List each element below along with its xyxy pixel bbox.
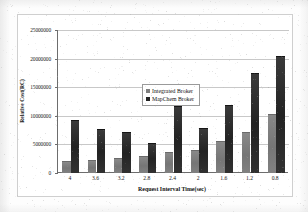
y-axis-tick-labels: 0500000010000000150000002000000025000000 [0, 30, 54, 173]
bar-group [62, 30, 79, 173]
legend-label-mapchem-broker: MapChem Broker [152, 95, 194, 103]
x-axis-tick-label: 2 [197, 175, 200, 181]
bar-group [88, 30, 105, 173]
x-axis-tick-label: 3.6 [92, 175, 99, 181]
legend-swatch-mapchem-broker [146, 97, 150, 101]
x-axis-tick-label: 2.8 [143, 175, 150, 181]
x-axis-tick-label: 1.2 [246, 175, 253, 181]
x-axis-tick-label: 4 [68, 175, 71, 181]
y-axis-tick [55, 173, 58, 174]
y-axis-tick-label: 0 [0, 170, 51, 176]
y-axis-tick-label: 20000000 [0, 56, 51, 62]
bar [225, 105, 233, 173]
bar [199, 128, 207, 173]
y-axis-tick-label: 5000000 [0, 141, 51, 147]
bar [88, 160, 96, 173]
bar [97, 129, 105, 173]
y-axis-tick-label: 25000000 [0, 27, 51, 33]
legend-swatch-integrated-broker [146, 89, 150, 93]
x-axis-tick-label: 2.4 [169, 175, 176, 181]
bar [62, 161, 70, 173]
bar [268, 114, 276, 173]
bar [174, 106, 182, 173]
bar-group [216, 30, 233, 173]
bar [114, 158, 122, 173]
y-axis-tick-label: 10000000 [0, 113, 51, 119]
x-axis-tick-label: 3.2 [118, 175, 125, 181]
y-axis-tick-label: 15000000 [0, 84, 51, 90]
bar [242, 132, 250, 173]
x-axis-tick-label: 1.6 [220, 175, 227, 181]
bar [122, 132, 130, 173]
chart-legend: Integrated Broker MapChem Broker [142, 84, 200, 106]
bar [71, 120, 79, 173]
legend-item-integrated-broker: Integrated Broker [146, 87, 194, 95]
bar-group [268, 30, 285, 173]
bar-group [242, 30, 259, 173]
plot-area: Integrated Broker MapChem Broker [57, 30, 288, 173]
x-axis-tick-label: 0.8 [272, 175, 279, 181]
legend-label-integrated-broker: Integrated Broker [152, 87, 193, 95]
scanned-figure-page: 0500000010000000150000002000000025000000… [0, 0, 308, 212]
bar [139, 156, 147, 173]
bar [251, 73, 259, 173]
x-axis-title: Request Interval Time(sec) [138, 186, 206, 192]
bar [148, 143, 156, 173]
bar [276, 56, 284, 173]
x-axis-tick-labels: 43.63.22.82.421.61.20.8 [57, 175, 288, 185]
bar [191, 150, 199, 173]
legend-item-mapchem-broker: MapChem Broker [146, 95, 194, 103]
bar-group [114, 30, 131, 173]
y-axis-title: Relative Cost(RC) [19, 79, 25, 123]
bar [165, 152, 173, 173]
bar [216, 141, 224, 173]
